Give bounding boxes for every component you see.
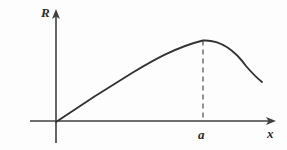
x-axis-tick-label-a: a (198, 128, 205, 141)
y-axis-label: R (41, 6, 50, 19)
figure-container: R x a (0, 0, 287, 150)
x-axis-label: x (267, 127, 274, 140)
plot-canvas (0, 0, 287, 150)
curve-R-of-x (56, 40, 262, 122)
